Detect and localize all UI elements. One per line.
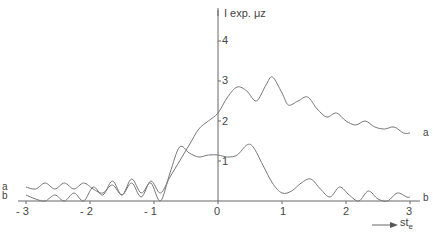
curve-a-label-right: a: [423, 127, 429, 138]
x-tick-1: 1: [280, 205, 286, 217]
x-tick-neg3: - 3: [16, 205, 29, 217]
y-tick-2: 2: [222, 115, 228, 127]
x-axis-label: ste: [400, 216, 414, 231]
y-tick-4: 4: [222, 34, 228, 46]
x-axis-arrow-icon: [390, 222, 398, 228]
x-tick-0: 0: [214, 205, 220, 217]
x-tick-neg1: - 1: [144, 205, 157, 217]
curve-b-label-left: b: [2, 190, 8, 201]
curve-b-label-right: b: [423, 192, 429, 203]
x-tick-2: 2: [343, 205, 349, 217]
chart-canvas: 4 3 2 1 I exp. μz - 3 - 2 - 1 0 1 2 3 st…: [0, 0, 433, 238]
x-tick-neg2: - 2: [80, 205, 93, 217]
y-axis-label: I exp. μz: [224, 7, 266, 19]
y-tick-3: 3: [222, 74, 228, 86]
